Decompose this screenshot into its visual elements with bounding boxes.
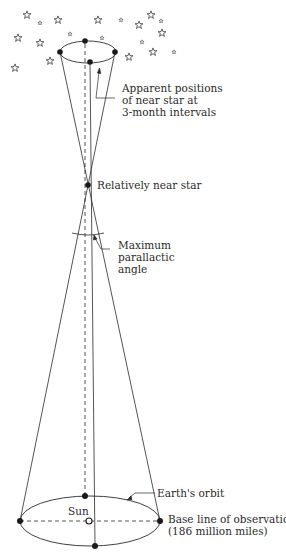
apparent-position-right <box>112 49 118 55</box>
near-star-label: Relatively near star <box>97 179 202 191</box>
base-line-line-2: (186 million miles) <box>168 525 286 537</box>
apparent-positions-line-3: 3-month intervals <box>122 106 223 118</box>
background-star-icon <box>46 57 54 65</box>
sun-label: Sun <box>68 505 89 517</box>
background-star-icon <box>23 11 31 19</box>
base-line-label: Base line of observation (186 million mi… <box>168 513 286 537</box>
apparent-position-bottom <box>87 59 93 65</box>
sight-lines <box>20 52 160 546</box>
background-star-icon <box>94 16 102 24</box>
background-star-icon <box>11 64 19 72</box>
base-line-line-1: Base line of observation <box>168 513 286 525</box>
background-star-icon <box>172 50 176 54</box>
background-star-icon <box>119 18 123 22</box>
parallactic-angle-line-3: angle <box>118 263 175 275</box>
background-star-icon <box>100 36 104 40</box>
earths-orbit-label: Earth's orbit <box>157 487 224 499</box>
background-star-icon <box>158 29 166 37</box>
background-star-icon <box>54 16 62 24</box>
apparent-positions-line-1: Apparent positions <box>122 82 223 94</box>
apparent-positions-leader <box>96 68 115 98</box>
earth-position-left <box>17 518 23 524</box>
apparent-position-top <box>82 38 88 44</box>
background-star-icon <box>125 53 133 61</box>
apparent-position-left <box>57 49 63 55</box>
parallactic-angle-line-2: parallactic <box>118 251 175 263</box>
background-star-icon <box>38 21 42 25</box>
apparent-positions-line-2: of near star at <box>122 94 223 106</box>
background-star-icon <box>36 39 44 47</box>
apparent-positions-label: Apparent positions of near star at 3-mon… <box>122 82 223 118</box>
earth-position-bottom <box>92 543 98 549</box>
apparent-position-dots <box>57 38 118 65</box>
background-star-icon <box>140 40 144 44</box>
background-star-icon <box>135 21 143 29</box>
background-star-icon <box>149 48 157 56</box>
background-star-icon <box>159 19 163 23</box>
earth-position-top <box>82 493 88 499</box>
parallactic-angle-line-1: Maximum <box>118 239 175 251</box>
background-star-icon <box>14 34 22 42</box>
earth-position-right <box>157 518 163 524</box>
sun-icon <box>86 518 92 524</box>
background-star-icon <box>147 11 155 19</box>
earths-orbit-leader <box>127 493 155 500</box>
near-star-dot <box>85 182 91 188</box>
background-star-icon <box>68 32 72 36</box>
apparent-position-ellipse <box>60 41 116 63</box>
parallactic-angle-label: Maximum parallactic angle <box>118 239 175 275</box>
